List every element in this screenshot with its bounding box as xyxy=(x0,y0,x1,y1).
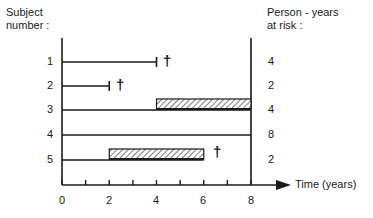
death-marker-5: † xyxy=(213,145,221,158)
subject-label-1: 1 xyxy=(47,55,53,68)
x-axis-arrow-icon xyxy=(276,180,291,190)
exposure-bar-5 xyxy=(109,149,204,159)
person-years-4: 8 xyxy=(268,128,274,141)
x-tick-4: 4 xyxy=(153,194,159,207)
subject-label-3: 3 xyxy=(47,103,53,116)
x-axis-label: Time (years) xyxy=(295,178,356,191)
x-tick-2: 2 xyxy=(106,194,112,207)
subject-label-4: 4 xyxy=(47,128,53,141)
person-years-1: 4 xyxy=(268,55,274,68)
subject-label-5: 5 xyxy=(47,153,53,166)
x-tick-0: 0 xyxy=(59,194,65,207)
person-years-3: 4 xyxy=(268,103,274,116)
x-tick-8: 8 xyxy=(248,194,254,207)
death-marker-2: † xyxy=(116,78,124,91)
subject-label-2: 2 xyxy=(47,79,53,92)
person-years-2: 2 xyxy=(268,79,274,92)
exposure-bar-3 xyxy=(157,99,252,109)
person-years-5: 2 xyxy=(268,153,274,166)
death-marker-1: † xyxy=(163,54,171,67)
x-tick-6: 6 xyxy=(200,194,206,207)
